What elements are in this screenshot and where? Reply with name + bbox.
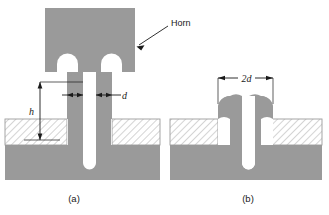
substrate-slab-a xyxy=(5,145,160,180)
dimension-d-label: d xyxy=(122,90,128,101)
dimension-2d-label: 2d xyxy=(242,73,253,84)
figure-b: 2d (b) xyxy=(170,71,322,204)
center-channel-a xyxy=(83,72,96,170)
horn-block-a xyxy=(45,8,135,72)
caption-a: (a) xyxy=(68,193,80,204)
figure-root: h d Horn (a) xyxy=(0,0,329,215)
horn-label: Horn xyxy=(171,18,191,28)
caption-b: (b) xyxy=(242,193,254,204)
dimension-h-label: h xyxy=(29,106,34,117)
horn-leader: Horn xyxy=(137,18,191,51)
technical-diagram: h d Horn (a) xyxy=(0,0,329,215)
figure-a: h d Horn (a) xyxy=(5,8,191,204)
